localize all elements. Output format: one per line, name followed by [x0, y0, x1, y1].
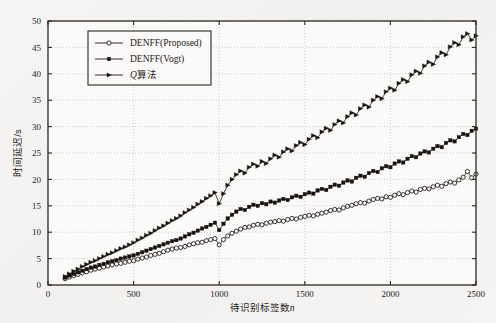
data-point-marker	[166, 241, 169, 244]
data-point-marker	[389, 166, 392, 169]
data-point-marker	[410, 154, 413, 157]
data-point-marker	[363, 175, 366, 178]
data-point-marker	[102, 262, 105, 265]
x-tick-label: 1000	[210, 289, 229, 299]
chart-legend: DENFF(Proposed)DENFF(Vogt)Q算法	[88, 31, 211, 85]
data-point-marker	[337, 184, 340, 187]
data-point-marker	[444, 182, 448, 186]
data-point-marker	[166, 248, 170, 252]
data-point-marker	[303, 192, 306, 195]
data-point-marker	[299, 195, 302, 198]
data-point-marker	[363, 201, 367, 205]
data-point-marker	[269, 200, 272, 203]
y-tick-label: 50	[32, 16, 42, 26]
data-point-marker	[316, 189, 319, 192]
data-point-marker	[359, 174, 362, 177]
data-point-marker	[325, 188, 328, 191]
data-point-marker	[111, 260, 114, 263]
data-point-marker	[221, 237, 225, 241]
x-tick-label: 2500	[467, 289, 486, 299]
data-point-marker	[144, 255, 148, 259]
y-tick-label: 25	[32, 148, 42, 158]
data-point-marker	[461, 175, 465, 179]
data-point-marker	[179, 245, 183, 249]
data-point-marker	[209, 237, 213, 241]
data-point-marker	[243, 225, 247, 229]
data-point-marker	[350, 203, 354, 207]
data-point-marker	[230, 231, 234, 235]
data-point-marker	[290, 216, 294, 220]
data-point-marker	[98, 263, 101, 266]
data-point-marker	[226, 217, 229, 220]
data-point-marker	[414, 156, 417, 159]
data-point-marker	[453, 181, 457, 185]
data-point-marker	[158, 244, 161, 247]
data-point-marker	[252, 203, 255, 206]
data-point-marker	[256, 204, 259, 207]
data-point-marker	[136, 252, 139, 255]
data-point-marker	[418, 187, 422, 191]
data-point-marker	[328, 208, 332, 212]
y-tick-label: 10	[32, 227, 42, 237]
data-point-marker	[170, 247, 174, 251]
data-point-marker	[427, 151, 430, 154]
data-point-marker	[260, 223, 264, 227]
data-point-marker	[145, 249, 148, 252]
data-point-marker	[393, 162, 396, 165]
data-point-marker	[187, 243, 191, 247]
data-point-marker	[457, 178, 461, 182]
data-point-marker	[466, 133, 469, 136]
data-point-marker	[440, 145, 443, 148]
y-tick-label: 35	[32, 95, 42, 105]
data-point-marker	[380, 197, 384, 201]
data-point-marker	[273, 220, 277, 224]
data-point-marker	[286, 198, 289, 201]
data-point-marker	[273, 201, 276, 204]
data-point-marker	[380, 167, 383, 170]
data-point-marker	[247, 225, 251, 229]
data-point-marker	[161, 250, 165, 254]
data-point-marker	[307, 191, 310, 194]
data-point-marker	[235, 210, 238, 213]
data-point-marker	[397, 192, 401, 196]
data-point-marker	[410, 189, 414, 193]
data-point-marker	[268, 220, 272, 224]
data-point-marker	[320, 211, 324, 215]
y-axis-title: 时间延迟/s	[12, 129, 23, 177]
data-point-marker	[346, 179, 349, 182]
data-point-marker	[432, 147, 435, 150]
data-point-marker	[423, 150, 426, 153]
data-point-marker	[247, 205, 250, 208]
data-point-marker	[114, 262, 118, 266]
data-point-marker	[196, 229, 199, 232]
data-point-marker	[174, 246, 178, 250]
data-point-marker	[397, 160, 400, 163]
data-point-marker	[367, 171, 370, 174]
chart-figure: 0510152025303540455005001000150020002500…	[0, 0, 496, 323]
data-point-marker	[162, 243, 165, 246]
data-point-marker	[123, 256, 126, 259]
data-point-marker	[320, 187, 323, 190]
data-point-marker	[294, 217, 298, 221]
data-point-marker	[384, 165, 387, 168]
data-point-marker	[286, 217, 290, 221]
data-point-marker	[213, 236, 217, 240]
data-point-marker	[282, 197, 285, 200]
data-point-marker	[191, 242, 195, 246]
data-point-marker	[93, 265, 96, 268]
data-point-marker	[157, 251, 161, 255]
data-point-marker	[149, 253, 153, 257]
data-point-marker	[372, 169, 375, 172]
data-point-marker	[188, 233, 191, 236]
y-tick-label: 5	[37, 254, 42, 264]
data-point-marker	[435, 183, 439, 187]
data-point-marker	[324, 210, 328, 214]
data-point-marker	[123, 260, 127, 264]
data-point-marker	[405, 191, 409, 195]
data-point-marker	[89, 266, 92, 269]
data-point-marker	[213, 221, 216, 224]
data-point-marker	[414, 190, 418, 194]
data-point-marker	[307, 213, 311, 217]
data-point-marker	[81, 269, 84, 272]
data-point-marker	[140, 256, 144, 260]
